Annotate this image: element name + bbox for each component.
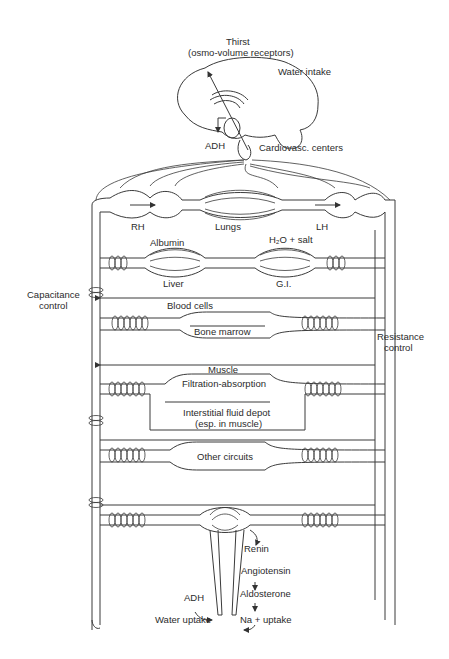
- capacitance-coil: [89, 288, 103, 293]
- coil-loop: [308, 448, 314, 462]
- capacitance-coil: [89, 293, 103, 298]
- albumin-label: Albumin: [150, 237, 184, 248]
- aldosterone-label: Aldosterone: [240, 588, 291, 599]
- coil-loop: [302, 316, 308, 330]
- lh-label: LH: [316, 221, 328, 232]
- water-salt-label: H₂O + salt: [269, 234, 313, 245]
- water-intake-label: Water intake: [278, 66, 331, 77]
- adh-brain-label: ADH: [205, 140, 225, 151]
- capacitance-coil: [89, 421, 103, 426]
- resistance-label-1: Resistance: [377, 331, 424, 342]
- receptors-label: (osmo-volume receptors): [188, 47, 294, 58]
- nerve-fibers: [96, 160, 390, 200]
- interstitial-label-1: Interstitial fluid depot: [183, 407, 270, 418]
- bone-marrow-label: Bone marrow: [194, 326, 251, 337]
- resistance-label-2: control: [384, 342, 413, 353]
- liver-label: Liver: [163, 278, 184, 289]
- filtration-label: Filtration-absorption: [182, 378, 266, 389]
- na-uptake-label: Na + uptake: [240, 614, 292, 625]
- rh-label: RH: [131, 221, 145, 232]
- thirst-label: Thirst: [226, 36, 250, 47]
- capacitance-coil: [89, 416, 103, 421]
- other-circuits-label: Other circuits: [197, 451, 253, 462]
- adh-kidney-label: ADH: [184, 592, 204, 603]
- capacitance-label-2: control: [39, 300, 68, 311]
- capacitance-label-1: Capacitance: [27, 289, 80, 300]
- resistance-coils: [89, 256, 345, 527]
- cardiovasc-centers-label: Cardiovasc. centers: [259, 142, 343, 153]
- muscle-label: Muscle: [208, 364, 238, 375]
- water-uptake-label: Water uptake: [155, 614, 211, 625]
- angiotensin-label: Angiotensin: [241, 565, 291, 576]
- blood-cells-label: Blood cells: [167, 300, 213, 311]
- gi-label: G.I.: [276, 278, 291, 289]
- interstitial-label-2: (esp. in muscle): [195, 418, 262, 429]
- coil-loop: [302, 448, 308, 462]
- renin-label: Renin: [244, 543, 269, 554]
- thirst-arrow: [208, 72, 248, 150]
- lungs-label: Lungs: [215, 221, 241, 232]
- capacitance-coil: [89, 498, 103, 503]
